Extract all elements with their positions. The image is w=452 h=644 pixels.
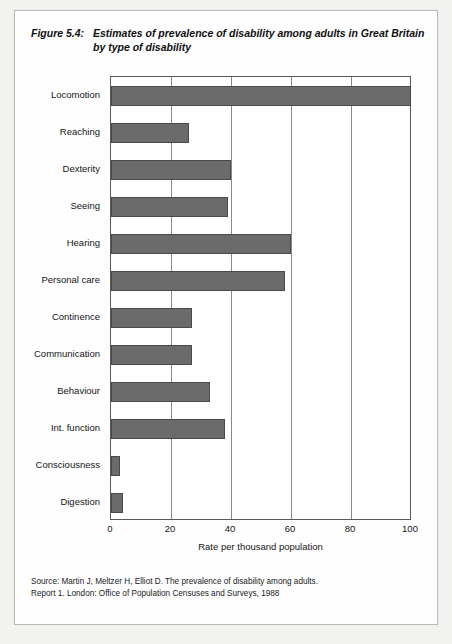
- bar-row: [111, 197, 412, 217]
- bar-behaviour: [111, 382, 210, 402]
- x-tick-label: 80: [345, 523, 356, 534]
- x-tick-label: 20: [165, 523, 176, 534]
- bar-row: [111, 86, 412, 106]
- x-axis-title: Rate per thousand population: [110, 541, 411, 552]
- bar-consciousness: [111, 456, 120, 476]
- bar-row: [111, 419, 412, 439]
- page-background: Figure 5.4: Estimates of prevalence of d…: [0, 0, 452, 644]
- source-note: Source: Martin J, Meltzer H, Elliot D. T…: [31, 576, 423, 599]
- plot-area: [110, 76, 411, 520]
- category-label: Hearing: [67, 233, 100, 253]
- source-line-2: Report 1. London: Office of Population C…: [31, 588, 423, 600]
- category-label: Behaviour: [57, 381, 100, 401]
- y-axis-category-labels: LocomotionReachingDexteritySeeingHearing…: [15, 76, 106, 520]
- bar-reaching: [111, 123, 189, 143]
- bar-row: [111, 345, 412, 365]
- category-label: Locomotion: [51, 85, 100, 105]
- bar-series: [111, 77, 410, 519]
- bar-locomotion: [111, 86, 411, 106]
- category-label: Communication: [34, 344, 100, 364]
- category-label: Seeing: [70, 196, 100, 216]
- bar-int-function: [111, 419, 225, 439]
- bar-row: [111, 160, 412, 180]
- x-tick-label: 60: [285, 523, 296, 534]
- bar-row: [111, 271, 412, 291]
- category-label: Personal care: [41, 270, 100, 290]
- x-axis-tick-labels: 020406080100: [110, 523, 411, 539]
- bar-chart: LocomotionReachingDexteritySeeingHearing…: [15, 11, 439, 626]
- bar-row: [111, 308, 412, 328]
- bar-digestion: [111, 493, 123, 513]
- bar-dexterity: [111, 160, 231, 180]
- bar-row: [111, 456, 412, 476]
- category-label: Int. function: [51, 418, 100, 438]
- category-label: Consciousness: [36, 455, 100, 475]
- x-tick-label: 100: [402, 523, 418, 534]
- bar-row: [111, 493, 412, 513]
- bar-personal-care: [111, 271, 285, 291]
- bar-continence: [111, 308, 192, 328]
- bar-hearing: [111, 234, 291, 254]
- figure-frame: Figure 5.4: Estimates of prevalence of d…: [14, 10, 438, 625]
- bar-row: [111, 382, 412, 402]
- bar-row: [111, 123, 412, 143]
- category-label: Dexterity: [63, 159, 100, 179]
- source-line-1: Source: Martin J, Meltzer H, Elliot D. T…: [31, 576, 423, 588]
- bar-row: [111, 234, 412, 254]
- category-label: Continence: [52, 307, 100, 327]
- category-label: Reaching: [60, 122, 100, 142]
- category-label: Digestion: [60, 492, 100, 512]
- x-tick-label: 0: [107, 523, 112, 534]
- x-tick-label: 40: [225, 523, 236, 534]
- bar-seeing: [111, 197, 228, 217]
- bar-communication: [111, 345, 192, 365]
